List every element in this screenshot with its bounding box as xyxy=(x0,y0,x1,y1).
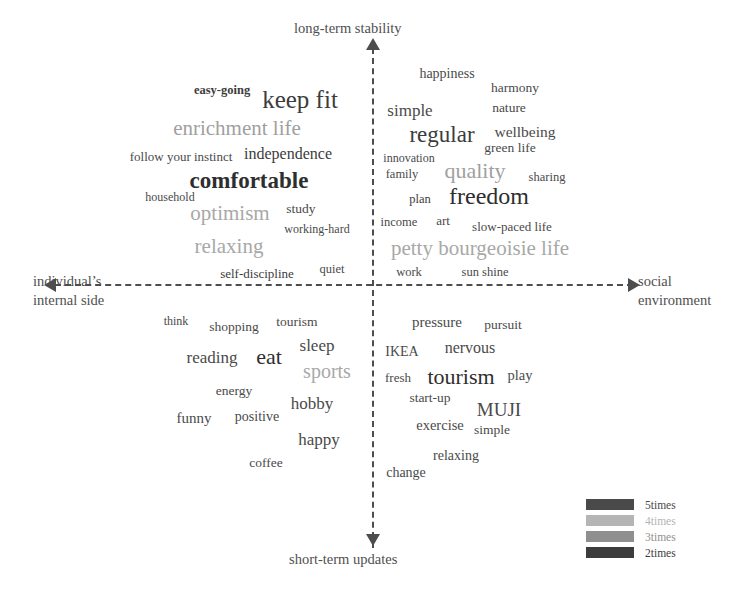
cloud-word: simple xyxy=(474,423,510,437)
axis-label-left-line2: internal side xyxy=(33,291,104,310)
cloud-word: quiet xyxy=(320,263,345,276)
horizontal-axis xyxy=(55,284,633,286)
cloud-word: household xyxy=(145,191,194,203)
cloud-word: keep fit xyxy=(262,87,338,112)
cloud-word: eat xyxy=(256,346,282,368)
axis-label-top: long-term stability xyxy=(294,19,402,38)
cloud-word: petty bourgeoisie life xyxy=(391,238,569,259)
cloud-word: follow your instinct xyxy=(130,150,233,163)
cloud-word: happiness xyxy=(419,67,474,81)
legend-color-swatch xyxy=(586,547,634,558)
cloud-word: pressure xyxy=(412,315,462,330)
cloud-word: happy xyxy=(298,431,340,448)
cloud-word: sun shine xyxy=(462,266,509,279)
axis-label-right-line2: environment xyxy=(638,291,711,310)
cloud-word: enrichment life xyxy=(173,118,301,139)
cloud-word: think xyxy=(164,315,189,327)
word-cloud-figure: long-term stability short-term updates i… xyxy=(0,0,739,598)
cloud-word: innovation xyxy=(383,152,434,164)
legend-item: 4times xyxy=(586,513,710,528)
cloud-word: relaxing xyxy=(195,236,264,257)
legend-color-swatch xyxy=(586,499,634,510)
cloud-word: comfortable xyxy=(190,169,309,192)
cloud-word: art xyxy=(436,214,450,227)
legend-item: 2times xyxy=(586,545,710,560)
axis-label-left: individual’s internal side xyxy=(33,272,104,309)
legend-label: 4times xyxy=(645,515,676,527)
cloud-word: nervous xyxy=(445,340,496,356)
cloud-word: sleep xyxy=(300,337,335,354)
cloud-word: nature xyxy=(492,101,526,115)
axis-arrow-up-icon xyxy=(366,38,380,50)
cloud-word: exercise xyxy=(416,418,464,433)
cloud-word: family xyxy=(386,168,419,181)
cloud-word: wellbeing xyxy=(494,124,555,140)
cloud-word: fresh xyxy=(385,371,411,384)
cloud-word: working-hard xyxy=(284,223,349,235)
cloud-word: regular xyxy=(409,123,474,146)
legend-color-swatch xyxy=(586,515,634,526)
cloud-word: play xyxy=(508,368,533,383)
cloud-word: slow-paced life xyxy=(472,220,552,233)
cloud-word: simple xyxy=(387,102,432,119)
cloud-word: positive xyxy=(235,410,279,424)
cloud-word: reading xyxy=(187,349,238,366)
cloud-word: study xyxy=(286,202,315,216)
cloud-word: harmony xyxy=(491,81,539,95)
legend-color-swatch xyxy=(586,531,634,542)
axis-arrow-down-icon xyxy=(366,534,380,546)
cloud-word: hobby xyxy=(291,395,334,412)
cloud-word: sports xyxy=(303,361,351,381)
vertical-axis xyxy=(372,48,374,548)
cloud-word: tourism xyxy=(427,366,494,388)
cloud-word: coffee xyxy=(249,456,282,470)
cloud-word: funny xyxy=(177,411,212,426)
cloud-word: shopping xyxy=(209,320,259,334)
cloud-word: plan xyxy=(409,193,431,206)
cloud-word: quality xyxy=(444,160,505,182)
cloud-word: self-discipline xyxy=(220,267,294,280)
cloud-word: start-up xyxy=(409,391,450,405)
cloud-word: relaxing xyxy=(433,449,479,463)
legend-item: 5times xyxy=(586,497,710,512)
axis-label-right: social environment xyxy=(638,272,711,309)
cloud-word: income xyxy=(381,216,418,229)
axis-label-right-line1: social xyxy=(638,272,711,291)
cloud-word: optimism xyxy=(190,203,269,224)
legend-label: 2times xyxy=(645,547,676,559)
legend-item: 3times xyxy=(586,529,710,544)
cloud-word: freedom xyxy=(449,184,529,208)
cloud-word: pursuit xyxy=(484,318,522,332)
cloud-word: MUJI xyxy=(477,400,521,419)
axis-label-bottom: short-term updates xyxy=(289,550,397,569)
cloud-word: easy-going xyxy=(194,84,250,97)
cloud-word: tourism xyxy=(276,315,317,329)
cloud-word: green life xyxy=(484,141,535,155)
legend-label: 3times xyxy=(645,531,676,543)
frequency-legend: 5times4times3times2times xyxy=(586,497,710,561)
cloud-word: energy xyxy=(216,384,253,398)
cloud-word: change xyxy=(386,466,426,480)
legend-label: 5times xyxy=(645,499,676,511)
cloud-word: IKEA xyxy=(385,345,418,359)
cloud-word: independence xyxy=(244,146,332,162)
axis-label-left-line1: individual’s xyxy=(33,272,104,291)
cloud-word: sharing xyxy=(529,171,566,184)
cloud-word: work xyxy=(396,266,422,279)
